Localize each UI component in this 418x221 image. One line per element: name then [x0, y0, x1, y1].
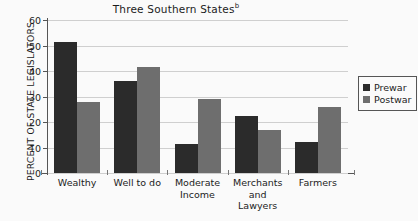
legend-item[interactable]: Prewar — [363, 82, 411, 93]
y-axis-tick-label: 30 — [23, 91, 41, 102]
bar-postwar — [258, 130, 281, 173]
chart-title-text: Three Southern States — [113, 3, 235, 15]
y-axis-tick-label: 10 — [23, 142, 41, 153]
y-axis-tick-label: 60 — [23, 15, 41, 26]
bar-prewar — [235, 116, 258, 173]
gridline — [47, 173, 348, 174]
chart-title: Three Southern Statesb — [0, 2, 352, 15]
legend-item-label: Prewar — [374, 82, 407, 93]
gridline — [47, 20, 348, 21]
y-axis-tick-mark — [43, 46, 48, 47]
x-axis-category-label: Well to do — [107, 177, 167, 189]
x-axis-category-label-line: Moderate — [167, 177, 227, 189]
legend-item-label: Postwar — [374, 94, 411, 105]
x-axis-end-tick — [41, 170, 42, 175]
x-axis-category-label-line: Wealthy — [47, 177, 107, 189]
x-axis-category-label-line: Lawyers — [228, 200, 288, 212]
x-axis-category-label: MerchantsandLawyers — [228, 177, 288, 212]
x-axis-category-label: Farmers — [288, 177, 348, 189]
y-axis-tick-mark — [43, 122, 48, 123]
gridline — [47, 46, 348, 47]
bar-prewar — [295, 142, 318, 173]
y-axis-tick-mark — [43, 148, 48, 149]
gridline — [47, 71, 348, 72]
x-axis-category-separator — [167, 170, 168, 175]
x-axis-category-label-line: Income — [167, 189, 227, 201]
y-axis-tick-label: 50 — [23, 40, 41, 51]
bar-chart: Three Southern Statesb PERCENT OF STATE … — [0, 0, 418, 221]
x-axis-category-label: ModerateIncome — [167, 177, 227, 200]
x-axis-category-separator — [107, 170, 108, 175]
x-axis-category-label-line: Merchants — [228, 177, 288, 189]
bar-prewar — [175, 144, 198, 173]
x-axis-category-label-line: and — [228, 189, 288, 201]
y-axis-tick-label: 20 — [23, 117, 41, 128]
bar-postwar — [198, 99, 221, 173]
y-axis-tick-mark — [43, 71, 48, 72]
gridline — [47, 97, 348, 98]
plot-area — [47, 20, 348, 173]
bar-postwar — [77, 102, 100, 173]
x-axis-category-label-line: Well to do — [107, 177, 167, 189]
y-axis-tick-mark — [43, 97, 48, 98]
prewar-swatch — [363, 84, 370, 91]
legend-item[interactable]: Postwar — [363, 94, 411, 105]
x-axis-category-label: Wealthy — [47, 177, 107, 189]
y-axis-tick-label: 0 — [23, 168, 41, 179]
bar-postwar — [137, 67, 160, 173]
y-axis-tick-mark — [43, 20, 48, 21]
x-axis-end-tick — [354, 170, 355, 175]
x-axis-category-separator — [288, 170, 289, 175]
bar-postwar — [318, 107, 341, 173]
postwar-swatch — [363, 96, 370, 103]
x-axis-category-label-line: Farmers — [288, 177, 348, 189]
x-axis-category-separator — [228, 170, 229, 175]
y-axis-tick-labels: 0102030405060 — [21, 0, 41, 221]
bar-prewar — [54, 42, 77, 173]
chart-title-footnote-marker: b — [235, 2, 240, 10]
bar-prewar — [114, 81, 137, 173]
y-axis-tick-label: 40 — [23, 66, 41, 77]
y-axis-tick-mark — [43, 173, 48, 174]
chart-legend: PrewarPostwar — [358, 76, 417, 111]
